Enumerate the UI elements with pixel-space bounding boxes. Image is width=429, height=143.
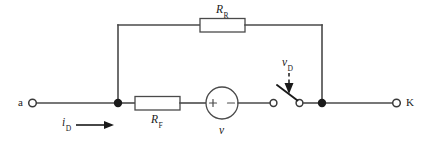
switch-left-contact[interactable] — [270, 100, 277, 107]
terminal-a-label: a — [18, 97, 23, 108]
junction-node-left — [114, 99, 122, 107]
terminal-k-circle[interactable] — [393, 99, 401, 107]
terminal-a-circle[interactable] — [29, 99, 37, 107]
circuit-diagram-canvas: a K RR RF v vD iD — [0, 0, 429, 143]
resistor-top-symbol — [200, 19, 245, 33]
junction-node-right — [318, 99, 326, 107]
terminal-k-label: K — [406, 97, 414, 108]
voltage-source-label: v — [219, 125, 224, 137]
switch-voltage-label: vD — [282, 57, 293, 71]
input-current-label: iD — [62, 117, 71, 131]
resistor-bottom-label: RF — [151, 114, 162, 128]
resistor-top-label: RR — [216, 4, 228, 18]
current-arrow-head-icon — [104, 121, 114, 129]
resistor-bottom-symbol — [135, 97, 180, 111]
